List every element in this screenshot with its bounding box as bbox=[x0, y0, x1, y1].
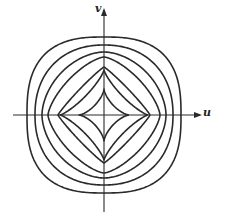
v-axis-label: v bbox=[95, 2, 101, 15]
v-axis-arrowhead-icon bbox=[101, 8, 107, 16]
u-axis-arrowhead-icon bbox=[194, 112, 202, 118]
u-axis-label: u bbox=[203, 106, 211, 119]
contour-figure bbox=[0, 0, 225, 220]
